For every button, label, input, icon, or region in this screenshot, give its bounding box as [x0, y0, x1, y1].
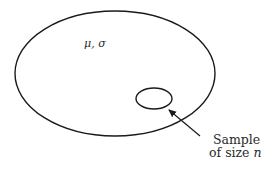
sampling-diagram: μ, σ Sample of size n: [0, 0, 268, 171]
sample-arrow: [169, 110, 200, 136]
diagram-svg: μ, σ Sample of size n: [0, 0, 268, 171]
sample-size-variable: n: [254, 145, 262, 160]
population-parameters-label: μ, σ: [84, 37, 106, 50]
population-ellipse: [15, 11, 215, 136]
sample-ellipse: [136, 88, 172, 109]
sample-label-line2: of size n: [209, 145, 262, 160]
sample-label-prefix: of size: [209, 145, 254, 160]
